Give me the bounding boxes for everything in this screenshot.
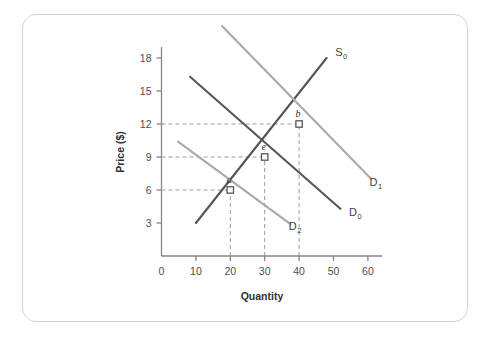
- y-axis-tick-label: 3: [146, 217, 152, 229]
- equilibrium-point-e: [262, 154, 268, 160]
- x-axis-tick-label: 20: [224, 265, 236, 277]
- y-axis-tick-label: 15: [140, 85, 152, 97]
- equilibrium-point-a: [227, 187, 233, 193]
- y-axis-tick-label: 9: [146, 151, 152, 163]
- chart-svg: 369121518 0102030405060 S0D0D1D2 aeb Pri…: [0, 0, 492, 343]
- curve-label-d0: D0: [349, 206, 362, 221]
- curve-label-subscript: 1: [378, 182, 382, 191]
- x-axis-ticks: [196, 256, 368, 261]
- y-axis-tick-label: 12: [140, 118, 152, 130]
- curve-d1: [222, 26, 371, 179]
- y-axis-title: Price ($): [114, 131, 126, 172]
- point-label-b: b: [296, 108, 301, 119]
- x-axis-tick-label: 60: [362, 265, 374, 277]
- equilibrium-point-b: [296, 121, 302, 127]
- curve-label-subscript: 0: [357, 212, 361, 221]
- x-axis-tick-label: 10: [190, 265, 202, 277]
- supply-demand-chart: 369121518 0102030405060 S0D0D1D2 aeb Pri…: [0, 0, 492, 343]
- x-axis-tick-labels: 0102030405060: [159, 265, 374, 277]
- curve-label-subscript: 2: [297, 226, 301, 235]
- curve-d2: [178, 142, 290, 225]
- x-axis-tick-label: 50: [328, 265, 340, 277]
- curve-label-s0: S0: [335, 46, 347, 61]
- curve-labels-group: S0D0D1D2: [289, 46, 382, 235]
- x-axis-tick-label: 30: [259, 265, 271, 277]
- y-axis-ticks: [157, 58, 162, 223]
- curve-label-subscript: 0: [343, 52, 347, 61]
- y-axis-tick-label: 18: [140, 52, 152, 64]
- y-axis-tick-labels: 369121518: [140, 52, 152, 229]
- curve-label-d1: D1: [370, 176, 383, 191]
- point-label-e: e: [261, 141, 266, 152]
- x-axis-tick-label: 40: [293, 265, 305, 277]
- point-label-a: a: [227, 174, 232, 185]
- y-axis-tick-label: 6: [146, 184, 152, 196]
- x-axis-tick-label: 0: [159, 265, 165, 277]
- curve-label-d2: D2: [289, 220, 302, 235]
- x-axis-title: Quantity: [241, 290, 284, 302]
